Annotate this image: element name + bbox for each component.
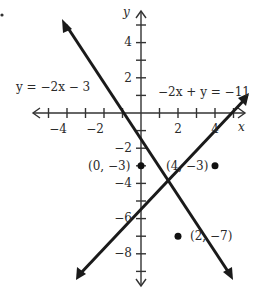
y-tick-label: −2 bbox=[114, 141, 132, 155]
x-axis bbox=[33, 108, 245, 118]
y-axis-label: y bbox=[122, 5, 130, 19]
point-label-4-neg3: (4, −3) bbox=[166, 159, 208, 173]
y-tick-label: −8 bbox=[114, 246, 132, 260]
x-tick-label: 4 bbox=[211, 122, 219, 136]
graph-canvas: y x −4 −2 2 4 4 2 −2 −4 −6 −8 y = −2x − … bbox=[0, 0, 255, 290]
line1-label: y = −2x − 3 bbox=[15, 80, 90, 94]
x-tick-label: −2 bbox=[86, 122, 104, 136]
point-0-neg3 bbox=[138, 162, 145, 169]
x-tick-label: 2 bbox=[174, 122, 182, 136]
y-tick-label: −6 bbox=[114, 211, 132, 225]
point-label-0-neg3: (0, −3) bbox=[88, 159, 130, 173]
point-label-2-neg7: (2, −7) bbox=[190, 229, 232, 243]
y-tick-label: 2 bbox=[124, 71, 132, 85]
bullet-marker bbox=[0, 13, 3, 16]
x-axis-label: x bbox=[238, 120, 245, 134]
point-2-neg7 bbox=[175, 233, 182, 240]
line2-label: −2x + y = −11 bbox=[158, 85, 250, 99]
x-tick-label: −4 bbox=[49, 122, 67, 136]
y-axis bbox=[136, 11, 146, 286]
y-tick-label: 4 bbox=[124, 35, 132, 49]
point-4-neg3 bbox=[212, 162, 219, 169]
y-tick-label: −4 bbox=[114, 176, 132, 190]
